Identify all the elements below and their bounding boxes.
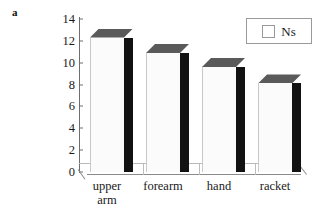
category-label: forearm bbox=[132, 180, 194, 194]
y-axis-tick-label: 8 bbox=[69, 78, 75, 91]
legend-entry-label: Ns bbox=[281, 25, 295, 38]
y-axis-tick-label: 6 bbox=[69, 100, 75, 113]
y-axis-tick-mark bbox=[79, 128, 83, 129]
y-axis-tick-label: 14 bbox=[63, 13, 76, 26]
floor-left-edge bbox=[78, 169, 86, 179]
y-axis-tick-label: 2 bbox=[69, 144, 75, 157]
bar-front-face bbox=[146, 53, 180, 172]
floor-divider bbox=[255, 164, 256, 175]
legend: Ns bbox=[246, 18, 312, 44]
y-axis-tick-mark bbox=[79, 19, 83, 20]
y-axis-tick-mark bbox=[79, 84, 83, 85]
floor-divider bbox=[143, 164, 144, 175]
bar-side-face bbox=[236, 67, 245, 172]
bar bbox=[258, 74, 301, 172]
floor-front-edge bbox=[87, 174, 301, 175]
category-label: racket bbox=[244, 180, 306, 194]
bar-front-face bbox=[90, 38, 124, 172]
floor-divider bbox=[199, 164, 200, 175]
y-axis-tick-label: 10 bbox=[63, 56, 76, 69]
square-swatch-icon bbox=[262, 25, 275, 38]
bar-top-face-fill bbox=[90, 29, 133, 38]
category-label: upper arm bbox=[76, 180, 138, 207]
bar-top-face-fill bbox=[258, 74, 301, 83]
bar-top-face bbox=[90, 29, 133, 38]
bar-side-face bbox=[292, 83, 301, 172]
category-label: hand bbox=[188, 180, 250, 194]
y-axis-tick-label: 4 bbox=[69, 122, 75, 135]
bar bbox=[202, 58, 245, 172]
bar bbox=[90, 29, 133, 172]
bar-side-face bbox=[180, 53, 189, 172]
bar-top-face-fill bbox=[146, 44, 189, 53]
y-axis-tick-mark bbox=[79, 40, 83, 41]
figure: a 02468101214 upper armforearmhandracket… bbox=[0, 0, 322, 221]
bar bbox=[146, 44, 189, 172]
bar-top-face bbox=[202, 58, 245, 67]
bar-top-face-fill bbox=[202, 58, 245, 67]
bar-top-face bbox=[258, 74, 301, 83]
y-axis-tick-mark bbox=[79, 62, 83, 63]
y-axis-tick-label: 0 bbox=[69, 166, 75, 179]
y-axis-tick-label: 12 bbox=[63, 35, 76, 48]
bar-front-face bbox=[258, 83, 292, 172]
bar-side-face bbox=[124, 38, 133, 172]
bar-front-face bbox=[202, 67, 236, 172]
bar-top-face bbox=[146, 44, 189, 53]
y-axis-tick-mark bbox=[79, 106, 83, 107]
y-axis-tick-mark bbox=[79, 150, 83, 151]
